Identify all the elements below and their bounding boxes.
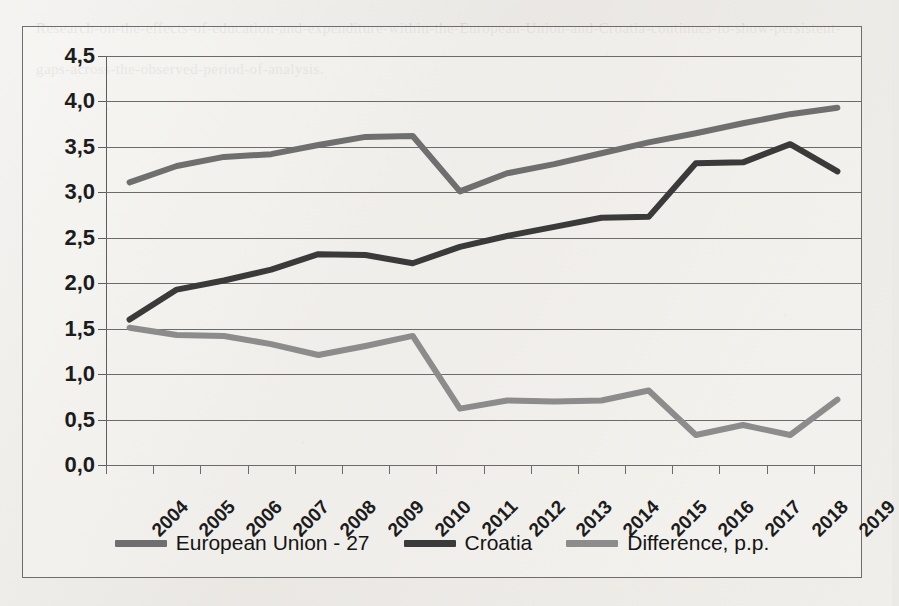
y-axis-tick-label: 2,0 (64, 270, 95, 296)
legend-swatch-icon (115, 540, 167, 547)
y-axis-tick (98, 374, 106, 375)
x-axis-tick (248, 465, 249, 474)
legend-item[interactable]: Croatia (404, 531, 533, 555)
chart-frame: 0,00,51,01,52,02,53,03,54,04,5 200420052… (22, 26, 862, 578)
y-axis-tick-label: 2,5 (64, 225, 95, 251)
series-lines (106, 56, 861, 465)
y-axis-tick (98, 147, 106, 148)
x-axis-tick (531, 465, 532, 474)
x-axis-tick-label: 2019 (855, 496, 899, 541)
y-axis-tick (98, 283, 106, 284)
x-axis-tick (389, 465, 390, 474)
legend-item[interactable]: European Union - 27 (115, 531, 370, 555)
y-axis-tick-label: 4,0 (64, 88, 95, 114)
y-axis-tick-label: 4,5 (64, 43, 95, 69)
y-axis-tick (98, 465, 106, 466)
y-axis-tick-label: 1,5 (64, 316, 95, 342)
series-line (130, 108, 838, 192)
chart-legend: European Union - 27CroatiaDifference, p.… (23, 531, 861, 555)
series-line (130, 328, 838, 435)
series-line (130, 144, 838, 319)
x-axis-tick (672, 465, 673, 474)
y-axis-tick (98, 420, 106, 421)
y-axis-tick (98, 238, 106, 239)
y-axis-tick (98, 329, 106, 330)
x-axis-tick (578, 465, 579, 474)
x-axis-tick (484, 465, 485, 474)
x-axis-tick (625, 465, 626, 474)
y-axis-tick-label: 0,0 (64, 452, 95, 478)
y-axis-tick (98, 101, 106, 102)
y-axis-tick-label: 3,5 (64, 134, 95, 160)
x-axis-tick (295, 465, 296, 474)
y-axis-tick-label: 3,0 (64, 179, 95, 205)
y-axis-tick (98, 56, 106, 57)
legend-swatch-icon (566, 540, 618, 547)
x-axis-tick (153, 465, 154, 474)
x-axis-tick (342, 465, 343, 474)
legend-label: Difference, p.p. (627, 531, 769, 555)
legend-label: European Union - 27 (176, 531, 370, 555)
legend-item[interactable]: Difference, p.p. (566, 531, 769, 555)
legend-label: Croatia (465, 531, 533, 555)
x-axis-tick (200, 465, 201, 474)
x-axis-tick (861, 465, 862, 474)
x-axis-tick (814, 465, 815, 474)
x-axis-tick (767, 465, 768, 474)
x-axis-tick (106, 465, 107, 474)
x-axis-tick (719, 465, 720, 474)
y-axis-tick (98, 192, 106, 193)
plot-area: 0,00,51,01,52,02,53,03,54,04,5 200420052… (106, 56, 861, 465)
y-axis-tick-label: 0,5 (64, 407, 95, 433)
legend-swatch-icon (404, 540, 456, 547)
y-axis-tick-label: 1,0 (64, 361, 95, 387)
x-axis-tick (436, 465, 437, 474)
